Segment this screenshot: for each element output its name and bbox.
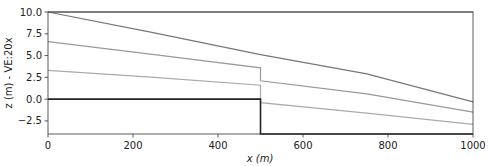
y-axis-label: z (m) - VE:20x bbox=[3, 37, 14, 108]
x-tick-label: 1000 bbox=[460, 140, 485, 151]
y-tick-label: 10.0 bbox=[20, 7, 42, 18]
x-tick-label: 600 bbox=[293, 140, 312, 151]
y-tick-label: −2.5 bbox=[18, 115, 42, 126]
y-tick-label: 7.5 bbox=[26, 28, 42, 39]
x-tick-label: 800 bbox=[378, 140, 397, 151]
series-bedrock bbox=[48, 99, 473, 134]
y-tick-label: 5.0 bbox=[26, 50, 42, 61]
x-axis-label: x (m) bbox=[246, 153, 274, 164]
y-tick-label: 2.5 bbox=[26, 72, 42, 83]
x-tick-label: 200 bbox=[123, 140, 142, 151]
y-axis: −2.50.02.55.07.510.0 bbox=[18, 7, 48, 127]
x-tick-label: 400 bbox=[208, 140, 227, 151]
x-tick-label: 0 bbox=[45, 140, 51, 151]
chart: 02004006008001000 −2.50.02.55.07.510.0 x… bbox=[0, 0, 488, 166]
plot-area bbox=[48, 12, 473, 134]
y-tick-label: 0.0 bbox=[26, 94, 42, 105]
x-axis: 02004006008001000 bbox=[45, 134, 486, 151]
